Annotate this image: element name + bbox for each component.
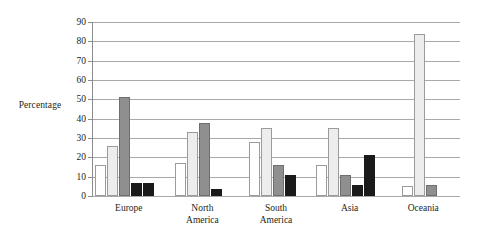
bar [211,189,222,196]
gridline [92,196,460,197]
bar [175,163,186,196]
bar [316,165,327,196]
bar [340,175,351,196]
x-axis-category-label-line: Oceania [376,203,470,215]
bar [273,165,284,196]
bar [119,97,130,196]
bar [364,155,375,196]
y-axis-tick-label: 40 [64,114,86,124]
y-axis-tick-label: 20 [64,152,86,162]
bar [95,165,106,196]
bar [143,183,154,196]
x-axis-category-label-line: America [229,215,323,227]
bar [249,142,260,196]
y-axis-tick-label: 70 [64,56,86,66]
bar [187,132,198,196]
y-axis-tick-labels: 9080706050403020100 [62,0,86,237]
y-axis-tick-label: 0 [64,191,86,201]
bar [261,128,272,196]
bars-layer [92,22,460,196]
bar [352,185,363,196]
bar-chart: Percentage 9080706050403020100 EuropeNor… [0,0,486,237]
y-axis-tick-label: 10 [64,172,86,182]
bar [426,185,437,196]
bar [131,183,142,197]
bar [285,175,296,196]
y-axis-tick-label: 90 [64,17,86,27]
y-axis-tick-label: 80 [64,36,86,46]
y-axis-tick-label: 60 [64,75,86,85]
bar [107,146,118,196]
bar [328,128,339,196]
x-axis-category-label: Oceania [376,203,470,215]
y-axis-tick-label: 30 [64,133,86,143]
bar [414,34,425,196]
y-axis-tick-label: 50 [64,94,86,104]
bar [402,186,413,196]
bar [199,123,210,197]
